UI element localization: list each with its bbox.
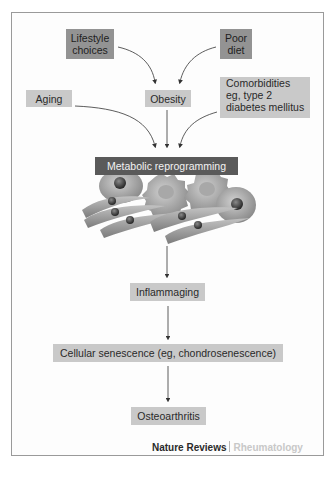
inflammaging-label: Inflammaging	[136, 286, 199, 298]
senescence-box: Cellular senescence (eg, chondrosenescen…	[53, 344, 283, 362]
arrow-comorbid-metabolic	[180, 112, 217, 146]
arrow-diet-obesity	[180, 47, 216, 82]
inflammaging-box: Inflammaging	[130, 283, 205, 301]
metabolic-label: Metabolic reprogramming	[107, 160, 226, 172]
poor-diet-box: Poor diet	[220, 29, 252, 59]
comorbidities-box: Comorbidities eg, type 2 diabetes mellit…	[220, 77, 310, 118]
aging-box: Aging	[26, 90, 72, 107]
poor-diet-label-line1: Poor	[225, 32, 247, 44]
lifestyle-label-line1: Lifestyle	[71, 32, 110, 44]
journal-footer: Nature ReviewsRheumatology	[152, 441, 303, 453]
comorbidities-line3: diabetes mellitus	[226, 101, 304, 113]
obesity-box: Obesity	[145, 90, 191, 107]
arrow-aging-metabolic	[75, 106, 155, 146]
footer-divider	[229, 441, 230, 452]
cell-cluster-icon	[82, 169, 256, 244]
senescence-label: Cellular senescence (eg, chondrosenescen…	[60, 347, 276, 359]
comorbidities-line2: eg, type 2	[226, 89, 272, 101]
metabolic-reprogramming-box: Metabolic reprogramming	[95, 157, 238, 175]
poor-diet-label-line2: diet	[228, 44, 245, 56]
aging-label: Aging	[36, 93, 63, 105]
comorbidities-line1: Comorbidities	[226, 77, 290, 89]
osteoarthritis-box: Osteoarthritis	[131, 407, 206, 425]
brand-name: Nature Reviews	[152, 442, 226, 453]
osteoarthritis-label: Osteoarthritis	[137, 410, 199, 422]
obesity-label: Obesity	[150, 93, 186, 105]
lifestyle-choices-box: Lifestyle choices	[66, 29, 114, 59]
lifestyle-label-line2: choices	[72, 44, 108, 56]
journal-name: Rheumatology	[233, 442, 302, 453]
arrow-lifestyle-obesity	[118, 47, 155, 82]
